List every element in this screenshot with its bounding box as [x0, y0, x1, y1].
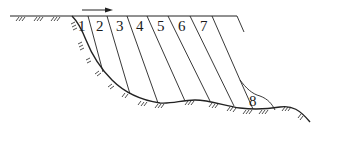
slip-surface — [72, 16, 310, 122]
slice-label-7: 7 — [200, 18, 208, 34]
slice-label-2: 2 — [96, 18, 104, 34]
slice-label-1: 1 — [78, 18, 86, 34]
ground-surface-left — [10, 16, 72, 21]
slip-surface-hatching — [71, 22, 303, 120]
slice-label-6: 6 — [178, 18, 186, 34]
slice-label-8: 8 — [249, 93, 257, 109]
slice-label-4: 4 — [136, 18, 144, 34]
slice-label-3: 3 — [116, 18, 124, 34]
arrow-right-icon — [82, 8, 113, 13]
ground-hatching-left — [16, 17, 60, 21]
slice-boundaries — [88, 16, 253, 109]
slice-label-5: 5 — [157, 18, 165, 34]
landslide-slice-diagram: 1 2 3 4 5 6 7 8 — [0, 0, 339, 141]
toe-deposit-outline — [240, 80, 275, 110]
